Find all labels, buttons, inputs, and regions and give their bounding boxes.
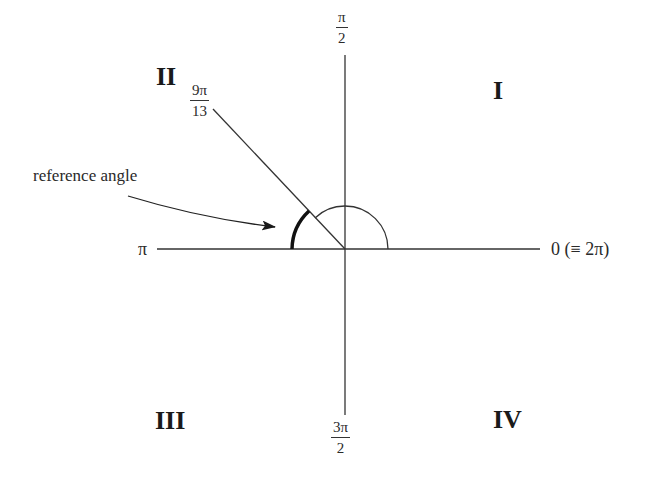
reference-angle-annotation: reference angle xyxy=(33,167,137,184)
axis-label-zero: 0 (≡ 2π) xyxy=(551,240,609,258)
quadrant-label-iv: IV xyxy=(493,407,522,433)
axis-label-pi-over-2: π 2 xyxy=(336,10,348,46)
annotation-arrow xyxy=(128,196,275,227)
axis-label-top-denominator: 2 xyxy=(338,28,346,46)
axis-label-3pi-over-2: 3π 2 xyxy=(331,420,350,456)
axis-label-pi: π xyxy=(138,240,147,258)
axis-label-bottom-numerator: 3π xyxy=(331,420,350,438)
angle-label-9pi-over-13: 9π 13 xyxy=(190,83,209,119)
angle-label-numerator: 9π xyxy=(190,83,209,101)
terminal-side-line xyxy=(213,109,345,249)
axis-label-bottom-denominator: 2 xyxy=(337,438,345,456)
quadrant-label-iii: III xyxy=(155,408,185,434)
quadrant-label-i: I xyxy=(493,78,503,104)
reference-angle-arc xyxy=(292,211,309,249)
angle-arc xyxy=(315,206,388,249)
quadrant-label-ii: II xyxy=(156,64,176,90)
axis-label-top-numerator: π xyxy=(336,10,348,28)
angle-label-denominator: 13 xyxy=(192,101,207,119)
